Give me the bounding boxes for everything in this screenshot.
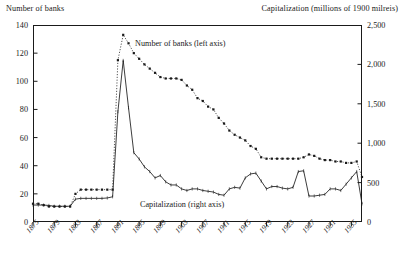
legend-label-banks: Number of banks (left axis) (135, 39, 226, 48)
plot-canvas (33, 25, 362, 222)
left-axis-tick-label: 80 (4, 105, 28, 114)
left-axis-tick-label: 60 (4, 133, 28, 142)
right-axis-tick-label: 500 (367, 178, 379, 187)
legend-label-capitalization: Capitalization (right axis) (140, 200, 224, 209)
right-axis-tick-label: 2,500 (367, 21, 385, 30)
series-number-of-banks (32, 34, 363, 208)
series-capitalization (33, 59, 362, 208)
left-axis-tick-label: 120 (4, 49, 28, 58)
right-axis-title: Capitalization (millions of 1900 milreis… (262, 4, 398, 13)
right-axis-tick-label: 2,000 (367, 60, 385, 69)
right-axis-tick-label: 1,000 (367, 139, 385, 148)
data-series (32, 34, 363, 208)
left-axis-tick-label: 20 (4, 189, 28, 198)
left-axis-tick-label: 140 (4, 21, 28, 30)
left-axis-tick-label: 0 (4, 218, 28, 227)
left-axis-tick-label: 40 (4, 161, 28, 170)
right-axis-tick-label: 0 (367, 218, 371, 227)
left-axis-title: Number of banks (6, 4, 64, 13)
left-axis-tick-label: 100 (4, 77, 28, 86)
right-axis-tick-label: 1,500 (367, 99, 385, 108)
chart-figure: Number of banks Capitalization (millions… (0, 0, 404, 256)
